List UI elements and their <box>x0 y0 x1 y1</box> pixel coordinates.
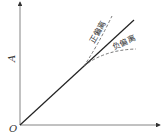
positive-deviation-label: 正偏离 <box>87 19 108 45</box>
beer-law-deviation-diagram: O A 正偏离 负偏离 <box>0 0 164 140</box>
y-axis-label: A <box>6 55 17 63</box>
negative-deviation-curve <box>84 49 136 66</box>
origin-label: O <box>9 123 17 134</box>
ideal-line <box>20 20 134 125</box>
